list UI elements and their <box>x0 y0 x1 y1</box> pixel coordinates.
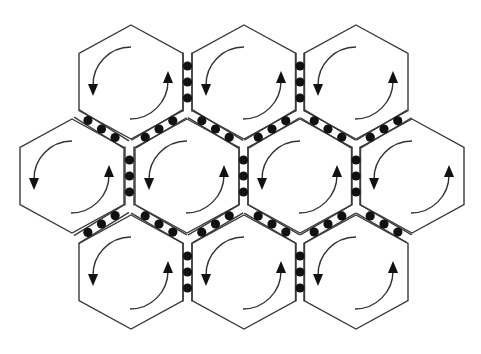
channel-dot <box>125 171 134 180</box>
channel-dot <box>323 219 332 228</box>
channel-dot <box>351 171 360 180</box>
channel-dot <box>239 187 248 196</box>
channel-dot <box>154 124 163 133</box>
channel-dot <box>183 251 192 260</box>
channel-dot <box>183 283 192 292</box>
channel-dot <box>97 124 106 133</box>
channel-dot <box>267 219 276 228</box>
channel-dot <box>366 211 375 220</box>
channel-dot <box>254 211 263 220</box>
channel-dot <box>281 116 290 125</box>
hex-cell <box>360 119 464 233</box>
channel-dot <box>351 187 360 196</box>
channel-dot <box>141 133 150 142</box>
channel-dot <box>295 77 304 86</box>
hex-cell <box>20 119 124 233</box>
channel-dot <box>225 133 234 142</box>
channel-dot <box>379 124 388 133</box>
channel-dot <box>254 133 263 142</box>
channel-dot <box>225 211 234 220</box>
channel-dot <box>239 171 248 180</box>
channel-dot <box>197 228 206 237</box>
channel-dot <box>337 133 346 142</box>
channel <box>183 53 192 112</box>
channel-dot <box>295 93 304 102</box>
channel-dot <box>393 227 402 236</box>
channel-dot <box>125 155 134 164</box>
hex-cell <box>79 25 183 139</box>
hex-cell <box>304 215 408 329</box>
channel <box>239 147 248 206</box>
channel-dot <box>323 124 332 133</box>
channel-dot <box>351 155 360 164</box>
channel-dot <box>141 211 150 220</box>
hex-cell <box>135 119 239 233</box>
channel-dot <box>111 211 120 220</box>
channel <box>351 147 360 206</box>
channel-dot <box>366 133 375 142</box>
channel-dot <box>183 77 192 86</box>
channel-dot <box>168 227 177 236</box>
channel-dot <box>281 227 290 236</box>
channel-dot <box>310 116 319 125</box>
channel-dot <box>295 283 304 292</box>
channel-dot <box>211 219 220 228</box>
channel-dot <box>295 267 304 276</box>
channel <box>183 243 192 302</box>
channel-dot <box>110 133 119 142</box>
channel-dot <box>337 211 346 220</box>
channel-dot <box>267 124 276 133</box>
hexagonal-cell-diagram <box>0 0 481 354</box>
channel-dot <box>295 251 304 260</box>
channel-dot <box>310 227 319 236</box>
channel-dot <box>211 124 220 133</box>
channel-dot <box>295 61 304 70</box>
channel-dot <box>183 61 192 70</box>
channel-dot <box>125 187 134 196</box>
hex-cell <box>192 25 296 139</box>
hex-cell <box>192 215 296 329</box>
channel-dot <box>83 116 92 125</box>
channel-dot <box>97 219 106 228</box>
channel-dot <box>379 219 388 228</box>
hex-cell <box>79 215 183 329</box>
channel <box>125 147 134 206</box>
channel-dot <box>154 219 163 228</box>
channel <box>295 243 304 302</box>
hex-cell <box>304 25 408 139</box>
channel <box>295 53 304 112</box>
channel-dot <box>239 155 248 164</box>
channel-dot <box>393 116 402 125</box>
channel-dot <box>168 116 177 125</box>
channel-dot <box>183 93 192 102</box>
hex-cell <box>248 119 352 233</box>
channel-dot <box>183 267 192 276</box>
channel-dot <box>197 116 206 125</box>
channel-dot <box>83 228 92 237</box>
